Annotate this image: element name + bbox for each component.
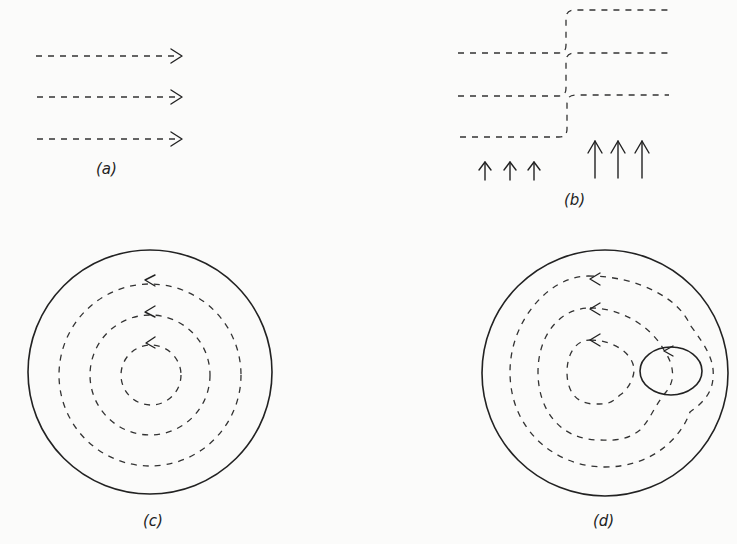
figure-canvas — [0, 0, 737, 544]
panel-d-obstacle-flow — [482, 250, 728, 496]
panel-label-b: (b) — [564, 191, 585, 209]
panel-b-step-flow — [458, 10, 669, 180]
panel-label-a: (a) — [96, 160, 117, 178]
panel-label-d: (d) — [593, 512, 614, 530]
panel-a-uniform-flow — [36, 49, 182, 146]
panel-label-c: (c) — [143, 512, 163, 530]
panel-c-circular-flow — [28, 250, 272, 494]
